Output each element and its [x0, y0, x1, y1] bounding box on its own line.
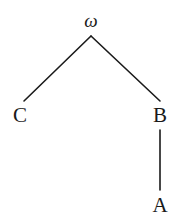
edge-omega-c: [24, 36, 91, 101]
node-c-label: C: [13, 103, 27, 127]
node-a-label: A: [152, 193, 168, 217]
tree-diagram: ω C B A: [0, 0, 184, 224]
node-omega-label: ω: [84, 10, 97, 31]
node-b-label: B: [153, 103, 167, 127]
edge-omega-b: [91, 36, 160, 101]
